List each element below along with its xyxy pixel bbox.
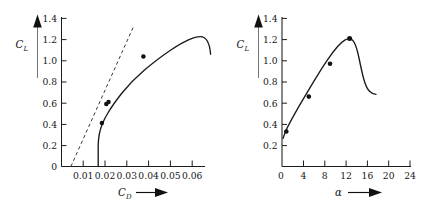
lift-curve-svg: 1.4 1.2 1.0 0.8 0.6 0.4 0.2 0 4 8 12 16 … xyxy=(215,0,430,208)
y-tick-label: 0.4 xyxy=(42,119,57,130)
drag-polar-curve xyxy=(98,37,210,167)
x-tick-label: 0.04 xyxy=(138,170,159,181)
x-tick-label: 0 xyxy=(278,170,284,181)
drag-polar-svg: 1.4 1.2 1.0 0.8 0.6 0.4 0.2 0 0.01 0.02 … xyxy=(0,0,215,208)
lift-curve-x-ticks xyxy=(304,161,411,167)
y-tick-label: 1.4 xyxy=(263,13,278,24)
y-tick-label: 0.8 xyxy=(263,76,278,87)
x-tick-label: 8 xyxy=(322,170,328,181)
y-tick-label: 0.6 xyxy=(263,98,278,109)
drag-polar-y-axis-label-sub: L xyxy=(23,45,29,53)
x-tick-label: 12 xyxy=(340,170,352,181)
drag-polar-x-axis-label: C xyxy=(118,187,126,198)
drag-polar-x-axis-label-sub: D xyxy=(125,193,132,201)
drag-polar-y-tick-labels: 1.4 1.2 1.0 0.8 0.6 0.4 0.2 0 xyxy=(42,13,57,172)
drag-polar-x-ticks xyxy=(83,161,192,167)
data-point xyxy=(141,54,146,59)
y-tick-label: 1.2 xyxy=(42,34,57,45)
drag-polar-tangent-line xyxy=(71,26,134,167)
x-tick-label: 0.02 xyxy=(95,170,115,181)
y-tick-label: 0.6 xyxy=(42,98,57,109)
y-tick-label: 0.4 xyxy=(263,119,278,130)
lift-curve-y-tick-labels: 1.4 1.2 1.0 0.8 0.6 0.4 0.2 xyxy=(263,13,278,151)
chart-panel-drag-polar: 1.4 1.2 1.0 0.8 0.6 0.4 0.2 0 0.01 0.02 … xyxy=(0,0,215,208)
y-tick-label: 1.0 xyxy=(42,55,57,66)
drag-polar-x-axis-arrow xyxy=(136,188,168,197)
lift-curve-x-tick-labels: 0 4 8 12 16 20 24 xyxy=(278,170,416,181)
y-tick-label: 1.4 xyxy=(42,13,57,24)
x-tick-label: 24 xyxy=(404,170,416,181)
x-tick-label: 16 xyxy=(362,170,374,181)
data-point xyxy=(100,121,105,126)
lift-curve-y-axis-label: C xyxy=(237,39,245,50)
data-point xyxy=(106,100,111,105)
y-tick-label: 1.2 xyxy=(263,34,278,45)
figure-root: 1.4 1.2 1.0 0.8 0.6 0.4 0.2 0 0.01 0.02 … xyxy=(0,0,430,208)
lift-curve-x-axis-label: α xyxy=(335,187,342,198)
x-tick-label: 0.03 xyxy=(117,170,138,181)
x-tick-label: 4 xyxy=(301,170,307,181)
drag-polar-y-axis-label: C xyxy=(16,39,24,50)
data-point xyxy=(307,94,312,99)
lift-curve-y-ticks xyxy=(282,18,287,145)
lift-curve-x-axis-arrow xyxy=(348,188,382,197)
lift-curve-y-axis-label-sub: L xyxy=(244,45,250,53)
x-tick-label: 0.05 xyxy=(160,170,181,181)
lift-curve-y-axis-arrow xyxy=(254,15,263,79)
data-point xyxy=(284,129,289,134)
y-tick-label: 1.0 xyxy=(263,55,278,66)
data-point xyxy=(347,36,352,41)
y-tick-label: 0.8 xyxy=(42,76,57,87)
x-tick-label: 0.01 xyxy=(73,170,93,181)
chart-panel-lift-curve: 1.4 1.2 1.0 0.8 0.6 0.4 0.2 0 4 8 12 16 … xyxy=(215,0,430,208)
x-tick-label: 0.06 xyxy=(182,170,203,181)
x-tick-label: 20 xyxy=(383,170,395,181)
lift-curve-data-markers xyxy=(284,36,352,134)
y-tick-label: 0.2 xyxy=(263,140,278,151)
drag-polar-y-axis-arrow xyxy=(33,15,42,79)
data-point xyxy=(328,61,333,66)
y-tick-label: 0 xyxy=(51,161,57,172)
lift-curve-path xyxy=(283,39,376,139)
y-tick-label: 0.2 xyxy=(42,140,57,151)
drag-polar-x-tick-labels: 0.01 0.02 0.03 0.04 0.05 0.06 xyxy=(73,170,203,181)
drag-polar-y-ticks xyxy=(62,18,67,145)
